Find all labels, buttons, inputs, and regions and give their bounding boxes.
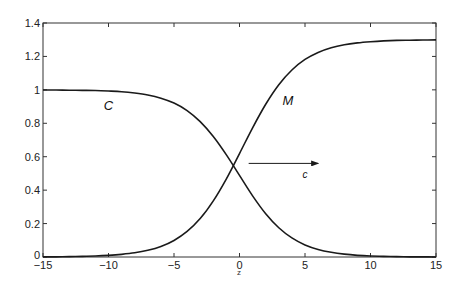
y-tick-label: 1.4 xyxy=(25,17,40,29)
x-tick-label: 10 xyxy=(364,259,376,271)
y-tick-label: 0.4 xyxy=(25,184,40,196)
y-tick-label: 0.2 xyxy=(25,218,40,230)
annotation-M: M xyxy=(283,93,294,108)
x-tick-label: −10 xyxy=(99,259,118,271)
plot-border xyxy=(43,23,436,257)
plot-frame xyxy=(43,23,436,257)
annotation-C: C xyxy=(104,98,114,113)
y-tick-label: 1 xyxy=(34,84,40,96)
annotation-speed-c: c xyxy=(303,169,308,180)
curve-c xyxy=(43,90,436,257)
x-axis-label: z xyxy=(237,268,241,277)
curve-m xyxy=(43,40,436,257)
y-tick-label: 0 xyxy=(34,249,40,261)
annotations: CMc xyxy=(104,93,318,181)
x-tick-label: 5 xyxy=(302,259,308,271)
y-tick-label: 1.2 xyxy=(25,50,40,62)
x-tick-label: −5 xyxy=(168,259,181,271)
y-axis: 00.20.40.60.811.21.4 xyxy=(25,17,436,261)
y-tick-label: 0.6 xyxy=(25,151,40,163)
y-tick-label: 0.8 xyxy=(25,117,40,129)
x-tick-label: 15 xyxy=(430,259,442,271)
curves xyxy=(43,40,436,257)
line-chart: −15−10−5051015 00.20.40.60.811.21.4 CMc … xyxy=(0,0,465,291)
x-axis: −15−10−5051015 xyxy=(34,23,442,271)
